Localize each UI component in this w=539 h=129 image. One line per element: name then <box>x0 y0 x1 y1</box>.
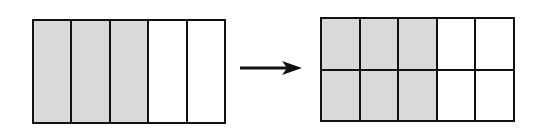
shaded-cell <box>34 21 70 122</box>
unshaded-cell <box>188 21 224 122</box>
left-fraction-model <box>32 19 226 124</box>
unshaded-cell <box>438 71 475 121</box>
shaded-cell <box>399 19 436 69</box>
shaded-cell <box>361 71 398 121</box>
right-fraction-model <box>320 17 515 122</box>
shaded-cell <box>399 71 436 121</box>
shaded-cell <box>111 21 147 122</box>
unshaded-cell <box>438 19 475 69</box>
shaded-cell <box>322 19 359 69</box>
shaded-cell <box>322 71 359 121</box>
right-arrow-icon <box>238 60 304 76</box>
shaded-cell <box>361 19 398 69</box>
shaded-cell <box>72 21 108 122</box>
unshaded-cell <box>149 21 185 122</box>
unshaded-cell <box>476 71 513 121</box>
unshaded-cell <box>476 19 513 69</box>
